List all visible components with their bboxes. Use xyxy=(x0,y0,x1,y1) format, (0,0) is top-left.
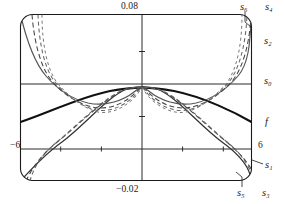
curve-label-s1: s₁ xyxy=(265,160,273,171)
curve-f xyxy=(21,87,252,122)
leader-s1 xyxy=(252,160,263,164)
curve-label-s3: s₃ xyxy=(262,188,270,199)
curve-label-s0: s₀ xyxy=(264,76,272,87)
figure-container: 0.08 −0.02 −6 6 s₀ s₂ s₄ s₆ f s₁ s₃ s₅ xyxy=(0,0,285,204)
y-axis-bottom-tick-label: −0.02 xyxy=(116,185,138,195)
curve-label-s2: s₂ xyxy=(264,36,272,47)
curve-label-f: f xyxy=(265,117,268,128)
y-axis-top-tick-label: 0.08 xyxy=(121,2,138,12)
plot-canvas xyxy=(0,0,285,204)
leader-s5 xyxy=(236,172,242,187)
curve-label-s6: s₆ xyxy=(240,2,248,13)
curve-s0 xyxy=(21,15,252,105)
curve-label-s4: s₄ xyxy=(265,2,273,13)
curve-label-s5: s₅ xyxy=(237,188,245,199)
x-axis-left-tick-label: −6 xyxy=(10,141,20,151)
x-axis-right-tick-label: 6 xyxy=(258,141,263,151)
plot-frame xyxy=(21,15,252,181)
